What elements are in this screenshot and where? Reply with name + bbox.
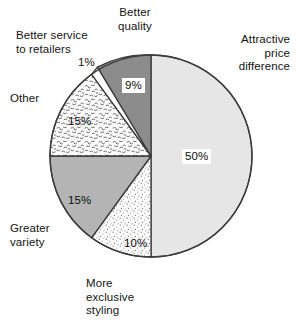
slice-label-greater-variety: Greater variety bbox=[10, 222, 80, 249]
slice-label-more-exclusive-styling: More exclusive styling bbox=[86, 277, 164, 318]
slice-value-better-service-to-retailers: 1% bbox=[78, 56, 95, 69]
slice-value-other: 15% bbox=[68, 115, 91, 128]
slice-value-attractive-price-difference: 50% bbox=[182, 149, 211, 164]
slice-label-attractive-price-difference: Attractive price difference bbox=[214, 33, 290, 74]
slice-value-more-exclusive-styling: 10% bbox=[124, 237, 147, 250]
slice-value-greater-variety: 15% bbox=[68, 194, 91, 207]
pie-chart: Better quality Better service to retaile… bbox=[0, 0, 296, 328]
slice-value-better-quality: 9% bbox=[122, 78, 145, 93]
slice-label-other: Other bbox=[10, 92, 70, 106]
slice-label-better-service-to-retailers: Better service to retailers bbox=[16, 29, 108, 56]
